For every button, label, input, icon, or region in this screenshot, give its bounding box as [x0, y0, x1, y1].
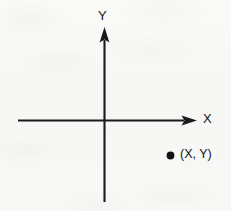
point-coordinate-label: (X, Y)	[180, 148, 212, 161]
axes-drawing	[0, 0, 231, 211]
y-axis-label: Y	[98, 9, 107, 22]
filled-circle-marker	[167, 152, 175, 160]
x-axis-label: X	[203, 112, 212, 125]
coordinate-axes-figure: Y X (X, Y)	[0, 0, 231, 211]
